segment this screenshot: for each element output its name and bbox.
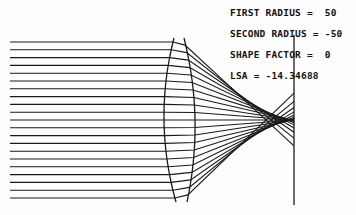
light-ray: [10, 107, 294, 182]
lens-ray-trace-diagram: FIRST RADIUS = 50 SECOND RADIUS = -50 SH…: [0, 0, 356, 215]
lsa-label: LSA = -14.34688: [230, 70, 319, 81]
second-radius-label: SECOND RADIUS = -50: [230, 28, 342, 39]
light-ray: [10, 50, 294, 138]
first-radius-label: FIRST RADIUS = 50: [230, 7, 337, 18]
light-ray: [10, 101, 294, 190]
shape-factor-label: SHAPE FACTOR = 0: [230, 49, 331, 60]
light-ray: [10, 58, 294, 133]
